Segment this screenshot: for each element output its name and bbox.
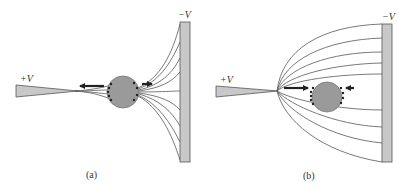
panel-a: +V −V (a) <box>16 9 193 181</box>
plate-electrode-a <box>180 22 190 162</box>
caption-b: (b) <box>303 170 315 182</box>
plate-label-b: −V <box>382 11 397 22</box>
tip-electrode-b <box>216 86 278 97</box>
tip-label-b: +V <box>220 74 235 85</box>
particle-b <box>312 82 342 112</box>
tip-electrode-a <box>16 85 78 97</box>
dielectrophoresis-diagram: +V −V (a) <box>0 0 405 188</box>
plate-label-a: −V <box>178 9 193 20</box>
plate-electrode-b <box>382 24 392 162</box>
panel-b: +V −V (b) <box>216 11 397 182</box>
particle-a <box>107 76 139 108</box>
caption-a: (a) <box>86 169 97 181</box>
tip-label-a: +V <box>20 73 35 84</box>
